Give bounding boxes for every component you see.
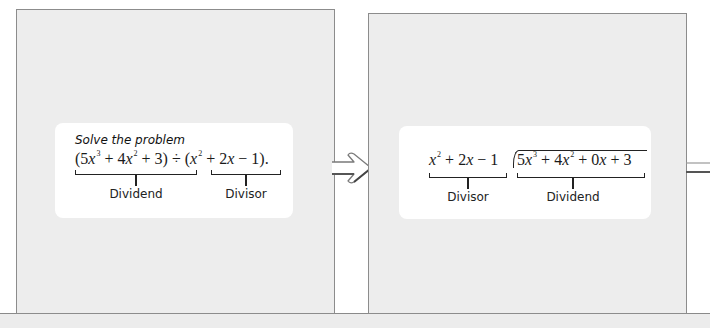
division-expression: (5x3 + 4x2 + 3) ÷ (x2 + 2x − 1).: [75, 149, 269, 168]
step-panel-problem: Solve the problem (5x3 + 4x2 + 3) ÷ (x2 …: [16, 9, 335, 314]
divide-operator: ÷: [168, 150, 185, 167]
bottom-strip: [0, 313, 710, 328]
dividend-pointer: [135, 174, 137, 186]
next-step-arrow-partial-icon: [686, 160, 710, 176]
dividend-label-right: Dividend: [546, 190, 599, 204]
step-panel-setup: x2 + 2x − 1 5x3 + 4x2 + 0x + 3 Divisor D…: [368, 13, 687, 314]
dividend-expression-right: 5x3 + 4x2 + 0x + 3: [517, 150, 631, 169]
divisor-pointer: [245, 174, 247, 186]
dividend-expression: (5x3 + 4x2 + 3): [75, 150, 168, 167]
dividend-label: Dividend: [109, 187, 162, 201]
problem-card: Solve the problem (5x3 + 4x2 + 3) ÷ (x2 …: [55, 123, 293, 218]
divisor-label: Divisor: [225, 187, 267, 201]
divisor-pointer-right: [467, 177, 469, 189]
long-division-card: x2 + 2x − 1 5x3 + 4x2 + 0x + 3 Divisor D…: [399, 126, 651, 219]
problem-prompt: Solve the problem: [75, 133, 185, 147]
divisor-label-right: Divisor: [447, 190, 489, 204]
dividend-bracket-right: [517, 173, 645, 178]
dividend-pointer-right: [572, 177, 574, 189]
divisor-expression: (x2 + 2x − 1): [185, 150, 265, 167]
divisor-expression-right: x2 + 2x − 1: [429, 150, 498, 169]
